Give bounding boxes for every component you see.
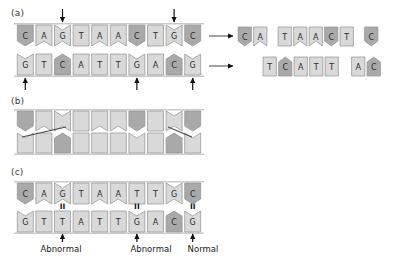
nucleotide-letter: C [23, 32, 29, 41]
nucleotide-letter: C [242, 33, 248, 42]
panel-b-top-tile [129, 111, 145, 131]
nucleotide-letter: T [152, 190, 158, 199]
nucleotide-letter: T [152, 32, 158, 41]
nucleotide-letter: T [266, 63, 272, 72]
nucleotide-letter: A [97, 190, 103, 199]
nucleotide-letter: G [59, 32, 65, 41]
nucleotide-letter: T [96, 218, 102, 227]
nucleotide-letter: A [116, 32, 122, 41]
nucleotide-letter: C [171, 218, 177, 227]
nucleotide-letter: T [40, 61, 46, 70]
panel-b-bottom-tile [55, 133, 71, 153]
generated-diagram-layer: CAGTAACTGCGTCATTGACGCATAACTCTCATTACCAGTA… [14, 9, 380, 242]
nucleotide-letter: T [59, 218, 65, 227]
nucleotide-letter: A [78, 61, 84, 70]
nucleotide-letter: T [40, 218, 46, 227]
diagram-svg: CAGTAACTGCGTCATTGACGCATAACTCTCATTACCAGTA… [0, 0, 411, 265]
panel-b-bottom-tile [110, 133, 126, 153]
nucleotide-letter: C [190, 32, 196, 41]
panel-b-bottom-tile [166, 133, 182, 153]
nucleotide-letter: T [133, 190, 139, 199]
nucleotide-letter: T [343, 33, 349, 42]
nucleotide-letter: C [23, 190, 29, 199]
nucleotide-letter: A [298, 33, 304, 42]
panel-b-bottom-tile [36, 133, 52, 153]
nucleotide-letter: G [171, 32, 177, 41]
nucleotide-letter: A [78, 218, 84, 227]
panel-b-bottom-tile [73, 133, 89, 153]
nucleotide-letter: G [22, 61, 28, 70]
panel-b-bottom-tile [148, 133, 164, 153]
nucleotide-letter: C [371, 63, 377, 72]
panel-b-top-tile [17, 111, 33, 131]
double-bond-mark: II [190, 202, 196, 211]
nucleotide-letter: G [134, 61, 140, 70]
nucleotide-letter: G [190, 218, 196, 227]
double-bond-mark: II [134, 202, 140, 211]
nucleotide-letter: A [41, 190, 47, 199]
nucleotide-letter: C [282, 63, 288, 72]
double-bond-mark: II [60, 202, 66, 211]
nucleotide-letter: A [356, 63, 362, 72]
panel-b-top-tile [73, 111, 89, 131]
panel-b-top-tile [148, 111, 164, 131]
nucleotide-letter: G [190, 61, 196, 70]
panel-b-top-tile [185, 111, 201, 131]
nucleotide-letter: T [115, 61, 121, 70]
nucleotide-letter: A [41, 32, 47, 41]
nucleotide-letter: T [96, 61, 102, 70]
nucleotide-letter: A [116, 190, 122, 199]
nucleotide-letter: G [134, 218, 140, 227]
nucleotide-letter: T [281, 33, 287, 42]
nucleotide-letter: C [171, 61, 177, 70]
nucleotide-letter: T [115, 218, 121, 227]
nucleotide-letter: C [328, 33, 334, 42]
nucleotide-letter: A [313, 33, 319, 42]
panel-b-top-tile [36, 111, 52, 131]
nucleotide-letter: C [190, 190, 196, 199]
figure-canvas: (a) (b) (c) Abnormal Abnormal Normal CAG… [0, 0, 411, 265]
nucleotide-letter: A [258, 33, 264, 42]
panel-b-top-tile [166, 111, 182, 131]
panel-b-top-tile [110, 111, 126, 131]
nucleotide-letter: G [171, 190, 177, 199]
nucleotide-letter: G [22, 218, 28, 227]
nucleotide-letter: T [78, 32, 84, 41]
nucleotide-letter: A [298, 63, 304, 72]
nucleotide-letter: C [60, 61, 66, 70]
nucleotide-letter: C [134, 32, 140, 41]
nucleotide-letter: A [153, 218, 159, 227]
panel-b-bottom-tile [92, 133, 108, 153]
panel-b-bottom-tile [129, 133, 145, 153]
nucleotide-letter: A [153, 61, 159, 70]
nucleotide-letter: T [313, 63, 319, 72]
nucleotide-letter: C [368, 33, 374, 42]
nucleotide-letter: A [97, 32, 103, 41]
panel-b-top-tile [92, 111, 108, 131]
nucleotide-letter: T [328, 63, 334, 72]
panel-b-bottom-tile [185, 133, 201, 153]
nucleotide-letter: T [78, 190, 84, 199]
nucleotide-letter: G [59, 190, 65, 199]
